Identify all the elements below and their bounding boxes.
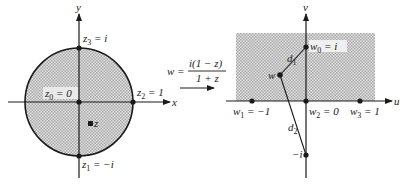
y-axis-label: y: [75, 1, 81, 13]
w2-label: w2 = 0: [309, 105, 339, 120]
mapping-numerator: i(1 − z): [189, 57, 222, 70]
mapping-formula: w = i(1 − z) 1 + z: [167, 57, 226, 88]
u-axis-label: u: [394, 95, 400, 107]
w-plane: u v w0 = i w d1 d2 w1 = −1 w2 = 0 w3 = 1…: [226, 1, 400, 178]
point-w1: [249, 98, 254, 103]
z3-label: z3 = i: [82, 32, 107, 47]
point-w2: [303, 98, 308, 103]
point-z: [88, 121, 93, 126]
v-axis-label: v: [303, 1, 308, 13]
point-w3: [357, 98, 362, 103]
w1-label: w1 = −1: [233, 105, 270, 120]
point-w: [277, 72, 283, 78]
w3-label: w3 = 1: [350, 105, 380, 120]
point-z1: [76, 153, 81, 158]
x-axis-label: x: [171, 96, 177, 108]
z2-label: z2 = 1: [136, 86, 164, 101]
point-minus-i: [303, 152, 308, 157]
w-point-label: w: [268, 69, 276, 81]
z-plane: x y z3 = i z0 = 0 z2 = 1 z1 = −i z: [8, 1, 177, 178]
minus-i-label: −i: [292, 148, 302, 160]
mapping-denominator: 1 + z: [196, 72, 219, 84]
z1-label: z1 = −i: [81, 158, 114, 173]
point-z3: [76, 45, 81, 50]
z-point-label: z: [93, 117, 99, 129]
point-z2: [130, 99, 135, 104]
mapping-lhs: w =: [167, 65, 185, 77]
diagram-canvas: x y z3 = i z0 = 0 z2 = 1 z1 = −i z w = i…: [0, 0, 419, 193]
point-z0: [76, 99, 81, 104]
point-w0: [303, 44, 308, 49]
